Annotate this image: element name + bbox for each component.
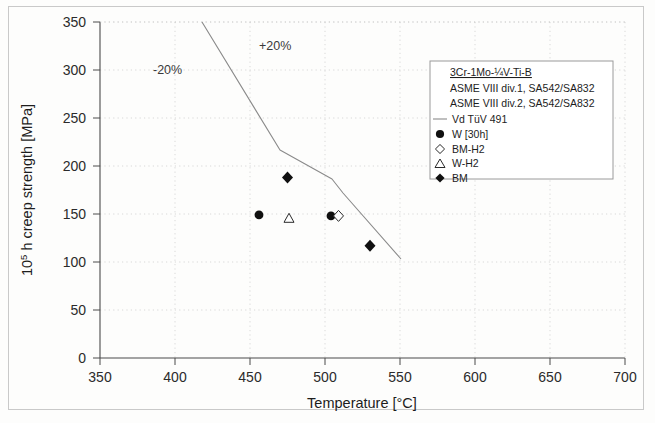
y-tick-label: 100 bbox=[63, 254, 87, 270]
marker-bm-filled-diamond bbox=[282, 172, 293, 184]
x-tick-label: 450 bbox=[238, 369, 262, 385]
y-tick-label: 150 bbox=[63, 206, 87, 222]
marker-bmh2-open-diamond bbox=[334, 210, 344, 221]
x-tick-label: 400 bbox=[163, 369, 187, 385]
legend-entry-label: W-H2 bbox=[452, 157, 479, 169]
y-tick-label: 50 bbox=[70, 302, 86, 318]
y-tick-labels: 350 300 250 200 150 100 50 0 bbox=[63, 14, 87, 366]
svg-text:105 h creep strength [MPa]: 105 h creep strength [MPa] bbox=[18, 104, 35, 276]
y-axis-ticks bbox=[93, 22, 100, 358]
legend-title: 3Cr-1Mo-¼V-Ti-B bbox=[450, 66, 532, 78]
marker-w30h-filled-circle bbox=[255, 211, 264, 220]
y-tick-label: 0 bbox=[78, 350, 86, 366]
marker-bm-filled-diamond bbox=[365, 240, 376, 252]
marker-wh2-open-triangle bbox=[284, 213, 294, 222]
y-axis-title: 105 h creep strength [MPa] bbox=[18, 104, 35, 276]
x-axis-title: Temperature [°C] bbox=[307, 395, 417, 411]
legend-subtitle: ASME VIII div.2, SA542/SA832 bbox=[450, 97, 595, 109]
y-tick-label: 250 bbox=[63, 110, 87, 126]
y-axis-title-rest: h creep strength [MPa] bbox=[19, 104, 35, 255]
legend-entry-label: Vd TüV 491 bbox=[452, 113, 507, 125]
x-tick-label: 650 bbox=[538, 369, 562, 385]
data-markers bbox=[255, 172, 376, 252]
y-tick-label: 200 bbox=[63, 158, 87, 174]
x-tick-label: 600 bbox=[463, 369, 487, 385]
x-tick-label: 550 bbox=[388, 369, 412, 385]
annotation-plus-20-percent: +20% bbox=[259, 39, 291, 53]
x-tick-label: 350 bbox=[88, 369, 112, 385]
legend-entry-label: W [30h] bbox=[452, 128, 488, 140]
annotation-minus-20-percent: -20% bbox=[153, 63, 182, 77]
legend-subtitle: ASME VIII div.1, SA542/SA832 bbox=[450, 82, 595, 94]
creep-strength-chart: 350 300 250 200 150 100 50 0 350 400 450… bbox=[0, 0, 655, 423]
x-tick-label: 700 bbox=[613, 369, 637, 385]
legend-entry-label: BM-H2 bbox=[452, 143, 485, 155]
x-tick-label: 500 bbox=[313, 369, 337, 385]
series-line-vd-tuv-491 bbox=[202, 22, 401, 259]
legend: 3Cr-1Mo-¼V-Ti-B ASME VIII div.1, SA542/S… bbox=[430, 61, 613, 184]
legend-entry-label: BM bbox=[452, 172, 468, 184]
legend-swatch-filled-circle-icon bbox=[436, 130, 444, 138]
x-tick-labels: 350 400 450 500 550 600 650 700 bbox=[88, 369, 637, 385]
x-axis-ticks bbox=[100, 358, 625, 365]
y-axis-title-base: 10 bbox=[19, 260, 35, 276]
y-tick-label: 300 bbox=[63, 62, 87, 78]
y-tick-label: 350 bbox=[63, 14, 87, 30]
